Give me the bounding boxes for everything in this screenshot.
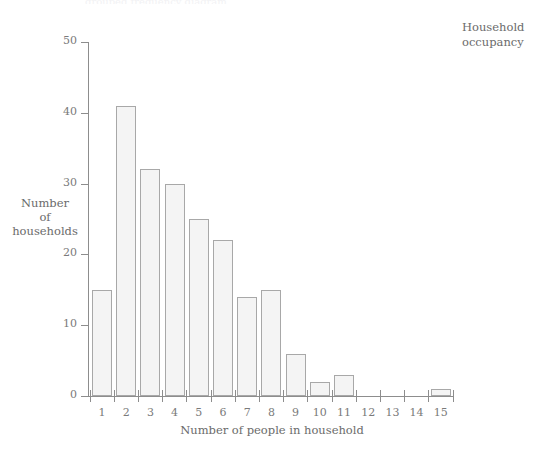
- x-axis-label: Number of people in household: [88, 423, 456, 437]
- x-axis-tick: [138, 390, 139, 402]
- bar: [92, 290, 112, 396]
- x-axis-tick: [235, 390, 236, 402]
- x-axis-tick-label: 10: [308, 406, 332, 419]
- x-axis-tick: [332, 390, 333, 402]
- x-axis-tick-label: 6: [211, 406, 235, 419]
- x-axis-tick: [186, 390, 187, 402]
- y-axis-tick-label: 0: [70, 388, 77, 401]
- x-axis-tick-label: 15: [429, 406, 453, 419]
- bar: [165, 184, 185, 396]
- x-axis-tick-label: 11: [332, 406, 356, 419]
- bar: [334, 375, 354, 396]
- x-axis-tick: [428, 390, 429, 402]
- y-axis-tick-label: 50: [63, 34, 77, 47]
- y-axis-tick: 0: [81, 396, 89, 397]
- bar: [116, 106, 136, 396]
- x-axis-tick: [380, 390, 381, 402]
- bar: [431, 389, 451, 396]
- y-axis-label: Number of households: [8, 196, 82, 238]
- y-axis-tick-label: 10: [63, 317, 77, 330]
- x-axis-tick: [90, 390, 91, 402]
- y-axis-tick: 40: [81, 113, 89, 114]
- y-axis-tick-label: 30: [63, 176, 77, 189]
- x-axis-tick: [162, 390, 163, 402]
- y-axis-tick-label: 40: [63, 105, 77, 118]
- bar: [310, 382, 330, 396]
- x-axis-tick: [404, 390, 405, 402]
- y-axis-tick: 10: [81, 325, 89, 326]
- x-axis-tick-label: 7: [235, 406, 259, 419]
- x-axis-tick: [114, 390, 115, 402]
- x-axis-tick-label: 3: [138, 406, 162, 419]
- bar: [237, 297, 257, 396]
- y-axis-tick: 20: [81, 254, 89, 255]
- x-axis-tick-label: 5: [187, 406, 211, 419]
- y-axis-tick: 30: [81, 184, 89, 185]
- x-axis-tick-label: 8: [259, 406, 283, 419]
- x-axis-tick-label: 9: [284, 406, 308, 419]
- x-axis-tick: [259, 390, 260, 402]
- x-axis-tick: [283, 390, 284, 402]
- x-axis-tick-label: 13: [380, 406, 404, 419]
- x-axis-tick: [307, 390, 308, 402]
- y-axis-tick-label: 20: [63, 246, 77, 259]
- bar: [286, 354, 306, 396]
- x-axis-tick-label: 2: [114, 406, 138, 419]
- x-axis-tick: [356, 390, 357, 402]
- bar: [261, 290, 281, 396]
- y-axis-line: [88, 42, 89, 396]
- y-axis-tick: 50: [81, 42, 89, 43]
- x-axis-tick-label: 1: [90, 406, 114, 419]
- bar: [140, 169, 160, 396]
- bar: [213, 240, 233, 396]
- x-axis-tick: [453, 390, 454, 402]
- x-axis-tick-label: 12: [356, 406, 380, 419]
- chart-title: Household occupancy: [462, 20, 532, 50]
- x-axis-tick-label: 4: [163, 406, 187, 419]
- x-axis-line: [88, 396, 453, 397]
- x-axis-tick: [211, 390, 212, 402]
- chart-root: grouped frequency diagram Household occu…: [0, 0, 533, 453]
- cropped-caption-text: grouped frequency diagram: [85, 0, 385, 4]
- bar: [189, 219, 209, 396]
- x-axis-tick-label: 14: [405, 406, 429, 419]
- plot-area: 01020304050 123456789101112131415: [88, 42, 456, 396]
